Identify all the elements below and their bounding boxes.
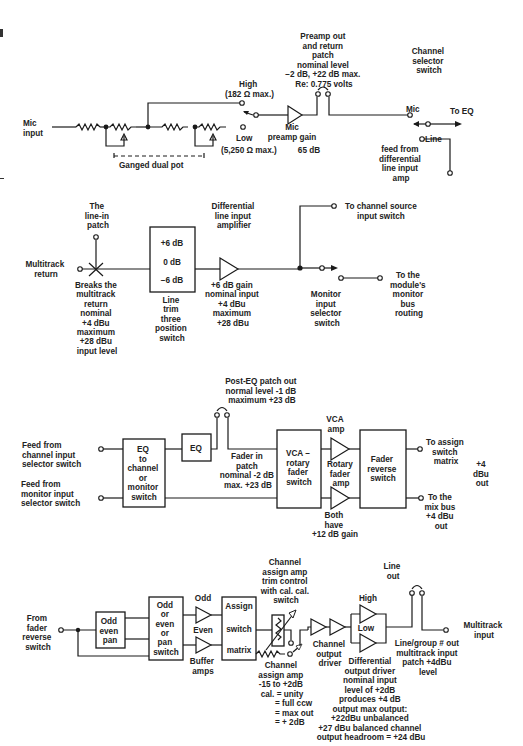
section-mic-preamp: Micinput Ganged dual pot High (182 Ω max… [23,32,474,183]
preamp-patch-return [326,92,331,97]
multitrack-return-label: Multitrack return [26,260,67,279]
channel-selector-pivot [426,122,431,127]
high-label: High [239,80,257,89]
differential-output-driver-note: Differential output driver nominal input… [317,657,426,742]
line-out-label: Line out [383,562,402,581]
channel-output-driver-amp-1 [311,619,326,635]
post-eq-patch-note: Post-EQ patch out normal level -1 dB max… [225,377,299,405]
low-terminal [241,125,246,130]
to-monitor-bus-label: To the module's monitor bus routing [390,271,428,318]
channel-output-driver-label: Channel output driver [313,640,348,668]
differential-line-input-amp [220,258,238,280]
section-eq-fader: Post-EQ patch out normal level -1 dB max… [21,377,491,539]
line-group-out-note: Line/group # out multitrack input patch … [395,639,461,677]
odd-label: Odd [195,594,211,603]
mic-preamp-amp [288,106,302,124]
buffer-amps-label: Buffer amps [190,657,216,676]
cal-switch-terminal [289,641,294,646]
to-eq-label: To EQ [450,107,474,116]
differential-amp-label: Differential line input amplifier [211,202,256,230]
assign-amp-note: Channel assign amp -15 to +2dB cal. = un… [258,661,305,699]
channel-selector-label: Channel selector switch [412,47,447,75]
line-in-patch-terminal [94,235,99,240]
odd-buffer-amp [196,607,211,623]
to-channel-source-label: To channel source input switch [345,202,419,221]
low-label: Low [358,624,375,633]
channel-output-driver-amp-2 [330,619,345,635]
fader-reverse-box-label: Fader reverse switch [367,455,398,483]
rotary-fader-amp-label: Rotary fader amp [327,460,355,488]
from-fader-reverse-label: From fader reverse switch [22,614,53,652]
assign-amp-note-cont: = full ccw = max out = + 2dB [275,699,316,727]
pot-1 [106,124,136,130]
preamp-patch-note: Preamp out and return patch nominal leve… [285,32,362,89]
trim-control-pot [272,615,284,646]
to-mix-bus-terminal [419,496,424,501]
to-monitor-bus-terminal [378,276,383,281]
plus4-dbu-out-label: +4 dBu out [473,460,491,488]
high-impedance: (182 Ω max.) [225,90,274,99]
high-label: High [359,594,377,603]
line-trim-label: Line trim three position switch [155,296,189,343]
trim-plus6: +6 dB [161,239,184,248]
preamp-gain-value: 65 dB [298,146,320,155]
even-label: Even [193,626,213,635]
vca-amp [331,438,349,460]
assign-amp-resistor [256,651,285,657]
assign-box-label-switch: switch [226,625,251,634]
vca-box-label: VCA – rotary fader switch [286,449,312,487]
mic-preamp-label: Micpreamp gain [268,123,317,142]
fader-in-patch-label: Fader in patch nominal -2 dB max. +23 dB [220,452,276,490]
to-mix-bus-label: To the mix bus +4 dBu out [424,493,457,531]
resistor-2 [148,124,188,130]
multitrack-input-patch [420,591,425,596]
section-assign-output: From fader reverse switch Odd even pan O… [22,558,504,742]
section-multitrack-return: Multitrack return The line-in patch Brea… [26,202,428,356]
assign-box-label-assign: Assign [225,602,252,611]
differential-amp-note: +6 dB gain nominal input +4 dBu maximum … [205,281,261,328]
mic-input-label: Micinput [23,119,43,138]
to-channel-source-terminal [332,204,337,209]
ganged-dual-pot-label: Ganged dual pot [119,161,184,170]
monitor-selector-label: Monitor input selector switch [310,290,344,328]
both-have-gain-note: Both have +12 dB gain [312,511,358,539]
vca-amp-label: VCA amp [326,415,345,434]
fader-in-patch [225,413,230,418]
low-label: Low [236,134,253,143]
signal-flow-diagram: Micinput Ganged dual pot High (182 Ω max… [0,0,523,746]
multitrack-input-terminal [444,628,449,633]
feed-channel-label: Feed from channel input selector switch [22,441,81,469]
line-out-patch-out [410,591,415,596]
eq-box-label: EQ [190,444,202,453]
rotary-fader-amp [331,487,349,509]
low-output-amp [360,634,376,652]
high-output-amp [360,605,376,623]
to-assign-terminal [418,447,423,452]
to-assign-label: To assign switch matrix [426,438,466,466]
even-buffer-amp [196,637,211,653]
post-eq-patch-out [215,413,220,418]
resistor-1 [76,124,100,130]
line-feed-label: feed from differential line input amp [379,145,423,183]
assign-box-label-matrix: matrix [227,646,252,655]
multitrack-input-label: Multitrack input [464,621,505,640]
low-impedance: (5,250 Ω max.) [221,146,277,155]
breaks-multitrack-note: Breaks the multitrack return nominal +4 … [75,281,119,356]
preamp-patch-out [316,92,321,97]
trim-zero: 0 dB [163,258,181,267]
mic-position-label: Mic [406,105,420,114]
line-in-patch-label: The line-in patch [85,202,111,230]
high-terminal [240,101,245,106]
pot-2 [195,124,226,130]
trim-minus6: −6 dB [161,276,184,285]
trim-control-label: Channel assign amp trim control with cal… [260,558,312,605]
feed-monitor-label: Feed from monitor input selector switch [21,480,80,508]
